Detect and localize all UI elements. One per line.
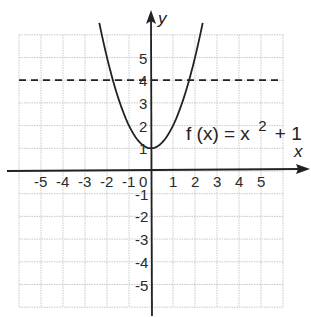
function-label-suffix: + 1 bbox=[275, 123, 302, 144]
x-tick-label: 5 bbox=[257, 173, 265, 190]
x-tick-label: 4 bbox=[235, 173, 243, 190]
y-tick-label: -2 bbox=[135, 208, 148, 225]
x-tick-label: -1 bbox=[122, 173, 135, 190]
y-tick-label: 3 bbox=[139, 95, 147, 112]
y-axis-label: y bbox=[157, 9, 168, 28]
y-tick-label: 5 bbox=[139, 50, 147, 67]
function-label: f (x) = x 2 + 1 bbox=[186, 114, 302, 144]
x-axis-arrow-icon bbox=[296, 164, 310, 174]
y-tick-label: -1 bbox=[135, 186, 148, 203]
x-axis-label: x bbox=[293, 142, 303, 161]
y-tick-label: 1 bbox=[139, 140, 147, 157]
x-tick-label: -3 bbox=[78, 173, 91, 190]
axes bbox=[7, 10, 310, 316]
x-tick-label: -4 bbox=[56, 173, 69, 190]
y-tick-label: 4 bbox=[139, 72, 147, 89]
x-tick-label: -2 bbox=[100, 173, 113, 190]
y-tick-label: 2 bbox=[139, 118, 147, 135]
y-axis bbox=[151, 18, 152, 316]
function-label-exponent: 2 bbox=[258, 117, 266, 134]
x-tick-label: 1 bbox=[169, 173, 177, 190]
x-tick-label: 3 bbox=[213, 173, 221, 190]
x-tick-label: 2 bbox=[191, 173, 199, 190]
y-tick-label: -5 bbox=[135, 277, 148, 294]
y-tick-label: -4 bbox=[135, 254, 148, 271]
x-tick-label: -5 bbox=[34, 173, 47, 190]
function-label-prefix: f (x) = x bbox=[186, 123, 250, 144]
coordinate-plane: -5-4-3-2-101234512345-1-2-3-4-5 y x f (x… bbox=[0, 0, 311, 317]
y-tick-label: -3 bbox=[135, 231, 148, 248]
